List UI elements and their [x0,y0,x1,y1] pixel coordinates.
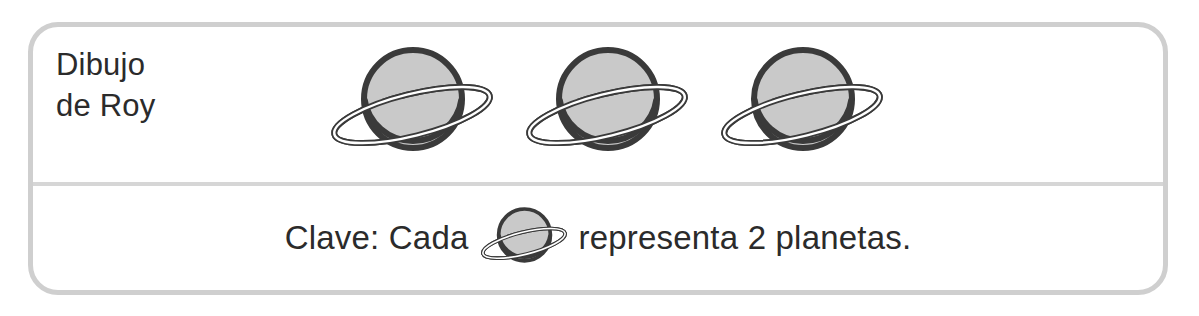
planet-saturn-icon [476,200,572,274]
pictograph-frame: Dibujo de Roy [28,22,1168,295]
symbol-group [323,33,891,173]
pictograph-data-row: Dibujo de Roy [33,27,1163,182]
row-label-dibujo-de-roy: Dibujo de Roy [56,44,155,126]
planet-saturn-icon [323,33,501,173]
planet-saturn-icon [518,33,696,173]
pictograph-legend: Clave: Cada representa 2 planetas. [33,186,1163,290]
legend-icon-wrap [476,200,572,274]
planet-saturn-icon [713,33,891,173]
legend-text-after: representa 2 planetas. [579,218,912,258]
legend-text-before: Clave: Cada [285,218,469,258]
